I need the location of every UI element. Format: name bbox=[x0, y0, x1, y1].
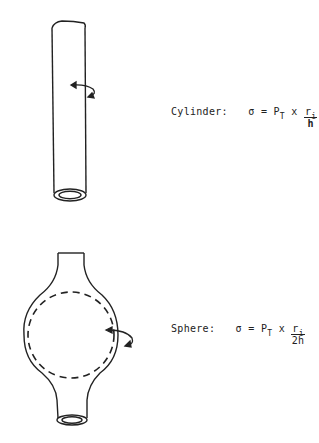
pressure-subscript: T bbox=[280, 112, 285, 121]
sigma-symbol: σ bbox=[236, 323, 242, 334]
times-sign: x bbox=[291, 106, 297, 117]
fraction-numerator: ri bbox=[291, 323, 304, 335]
sphere-formula: Sphere: σ = PT x ri 2h bbox=[171, 323, 305, 346]
pressure-symbol: P bbox=[274, 106, 280, 117]
cylinder-figure bbox=[52, 21, 86, 201]
fraction-numerator: ri bbox=[304, 106, 317, 118]
radius-over-thickness-fraction: ri 2h bbox=[291, 323, 304, 346]
radius-over-thickness-fraction: ri h bbox=[304, 106, 317, 129]
cylinder-label: Cylinder: bbox=[171, 106, 228, 117]
sphere-label: Sphere: bbox=[171, 323, 215, 334]
diagram-canvas bbox=[0, 0, 319, 443]
radius-symbol: r bbox=[292, 323, 298, 334]
cylinder-rotation-arrow-icon bbox=[71, 82, 94, 98]
radius-subscript: i bbox=[311, 112, 316, 121]
times-sign: x bbox=[279, 323, 285, 334]
cylinder-formula: Cylinder: σ = PT x ri h bbox=[171, 106, 317, 129]
radius-subscript: i bbox=[299, 329, 304, 338]
equals-sign: = bbox=[248, 323, 254, 334]
sphere-figure bbox=[24, 253, 118, 425]
sigma-symbol: σ bbox=[248, 106, 254, 117]
sphere-rotation-arrow-icon bbox=[106, 327, 133, 347]
equals-sign: = bbox=[261, 106, 267, 117]
pressure-subscript: T bbox=[267, 329, 272, 338]
